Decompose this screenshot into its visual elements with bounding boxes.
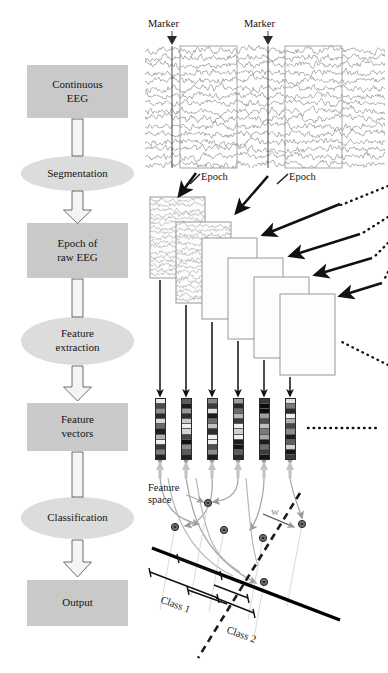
- epoch-window-left: [180, 46, 237, 168]
- flow-step-label: Continuous EEG: [52, 78, 103, 106]
- feature-vector: [285, 398, 296, 460]
- scatter-point: [259, 534, 266, 541]
- feature-space-label: Feature space: [148, 482, 180, 506]
- class-1-label: Class 1: [159, 594, 192, 615]
- flow-step-label: Epoch of raw EEG: [57, 237, 98, 265]
- epoch-stack: [150, 197, 335, 375]
- feature-cell: [286, 455, 295, 459]
- flow-step-label: Feature extraction: [56, 327, 100, 355]
- arrow-dotted-tails: [338, 186, 388, 365]
- feature-space-mapping-curves-2: [168, 478, 258, 576]
- marker-label-left: Marker: [148, 18, 179, 29]
- scatter-point: [298, 520, 305, 527]
- feature-vector: [155, 398, 166, 460]
- feature-cell: [182, 455, 191, 459]
- feature-space-mapping-curves: [160, 478, 302, 583]
- feature-vector: [233, 398, 244, 460]
- class-range-bars: [149, 554, 255, 618]
- feature-extraction-arrows: [160, 280, 290, 396]
- projection-lines: [160, 503, 302, 638]
- feature-vector: [181, 398, 192, 460]
- class-2-label: Class 2: [225, 624, 258, 645]
- marker-triangle-right: [263, 36, 273, 45]
- feature-space-pointer: [186, 495, 203, 502]
- flow-step-output: Output: [27, 580, 128, 626]
- flow-step-feature-vectors: Feature vectors: [27, 403, 128, 451]
- scatter-point: [220, 526, 227, 533]
- scatter-point: [260, 578, 267, 585]
- feature-cell: [260, 455, 269, 459]
- classification-arrows: [160, 462, 290, 464]
- epoch-card: [202, 238, 257, 319]
- epoch-label-right: Epoch: [289, 171, 316, 182]
- flow-step-continuous-eeg: Continuous EEG: [27, 65, 128, 118]
- marker-triangle-left: [167, 36, 177, 45]
- flow-step-label: Segmentation: [47, 167, 108, 181]
- feature-vector: [207, 398, 218, 460]
- feature-cell: [156, 455, 165, 459]
- epoch-card: [228, 258, 283, 339]
- epoch-label-left: Epoch: [201, 171, 228, 182]
- feature-space-points: [171, 499, 305, 585]
- flow-step-classification: Classification: [21, 497, 134, 539]
- epoch-window-right: [285, 46, 342, 168]
- weight-vector-label: w: [271, 505, 279, 517]
- segmentation-arrows-right: [263, 204, 382, 296]
- marker-stems: [172, 31, 268, 36]
- epoch-card: [280, 294, 335, 375]
- scatter-point: [171, 523, 178, 530]
- eeg-pipeline-figure: Continuous EEG Segmentation Epoch of raw…: [0, 0, 388, 673]
- marker-lines: [172, 46, 268, 168]
- scatter-point: [204, 499, 211, 506]
- epoch-card: [254, 277, 309, 358]
- flow-step-feature-extraction: Feature extraction: [21, 317, 134, 365]
- feature-cell: [208, 455, 217, 459]
- flow-step-label: Classification: [47, 511, 108, 525]
- marker-label-right: Marker: [244, 18, 275, 29]
- feature-vector: [259, 398, 270, 460]
- continuous-eeg-traces: [145, 45, 386, 170]
- flow-step-label: Feature vectors: [61, 413, 94, 441]
- feature-to-space-stubs: [156, 461, 294, 478]
- flow-step-epoch-raw-eeg: Epoch of raw EEG: [27, 223, 128, 278]
- feature-cell: [234, 455, 243, 459]
- epoch-card: [176, 222, 231, 303]
- flow-step-label: Output: [62, 596, 93, 610]
- epoch-card: [150, 197, 205, 278]
- flow-step-segmentation: Segmentation: [21, 156, 134, 191]
